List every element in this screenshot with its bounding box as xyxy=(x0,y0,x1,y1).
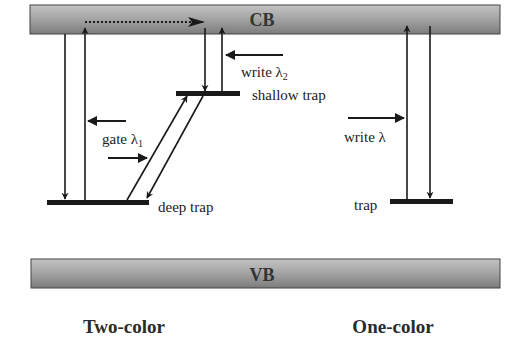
deep-trap-level xyxy=(47,200,149,205)
vb-label: VB xyxy=(249,265,274,285)
one-color-trap-level xyxy=(390,199,453,204)
one-color-title: One-color xyxy=(352,316,434,337)
one-color-scheme: trap write λ One-color xyxy=(344,26,453,337)
energy-band-diagram: CB VB deep trap shallow trap write λ2 xyxy=(0,0,527,357)
deep-to-shallow-arrow xyxy=(127,96,187,200)
shallow-to-deep-arrow xyxy=(147,96,203,198)
cb-label: CB xyxy=(249,10,274,30)
gate-lambda1-label: gate λ1 xyxy=(102,131,143,149)
one-color-trap-label: trap xyxy=(354,197,377,213)
shallow-trap-label: shallow trap xyxy=(252,87,326,103)
shallow-trap-level xyxy=(176,91,240,96)
write-lambda2-label: write λ2 xyxy=(241,64,288,82)
deep-trap-label: deep trap xyxy=(158,199,213,215)
valence-band: VB xyxy=(31,259,500,288)
two-color-title: Two-color xyxy=(83,316,166,337)
write-lambda-label: write λ xyxy=(344,129,387,145)
two-color-scheme: deep trap shallow trap write λ2 gate λ1 … xyxy=(47,17,326,337)
